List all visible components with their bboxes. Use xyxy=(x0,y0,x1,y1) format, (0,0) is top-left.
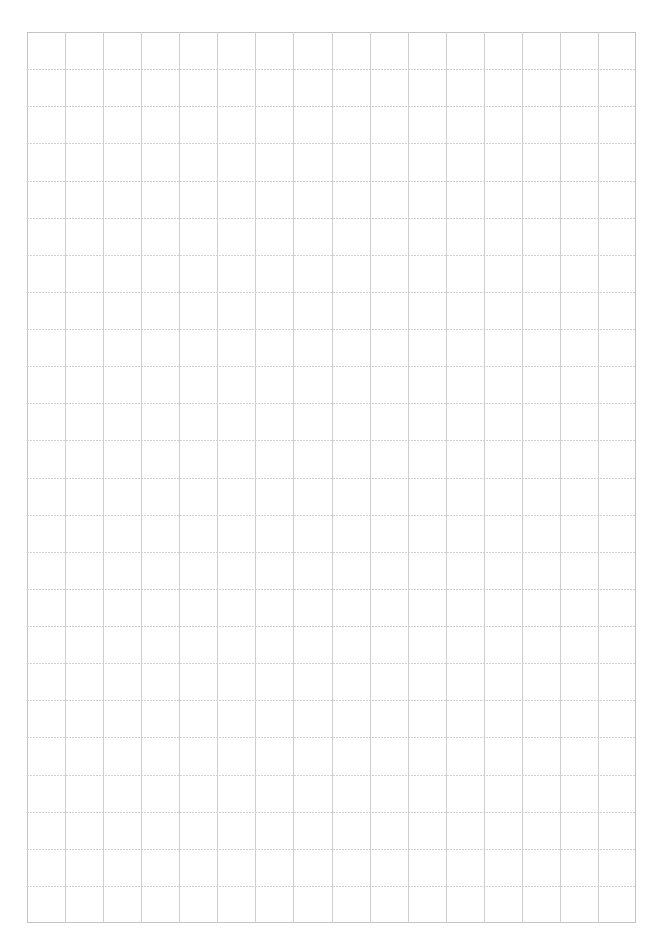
square-grid xyxy=(27,32,636,923)
grid-paper-page xyxy=(0,0,661,949)
grid-lines xyxy=(27,32,636,923)
